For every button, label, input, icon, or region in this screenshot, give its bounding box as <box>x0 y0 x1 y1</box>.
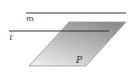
line-m-label: m <box>26 14 34 23</box>
line-l-label: ℓ <box>9 33 13 42</box>
plane-p-label: P <box>75 55 83 65</box>
geometry-diagram: m P ℓ <box>0 0 135 73</box>
